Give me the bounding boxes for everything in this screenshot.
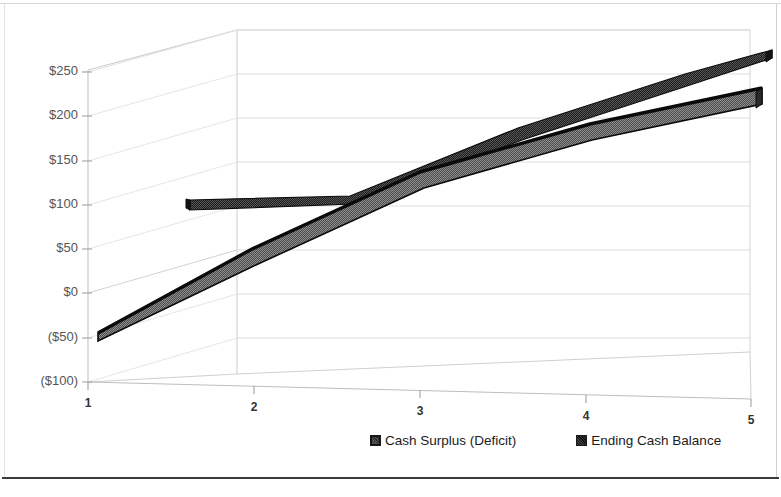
y-axis-label-50: $50 (4, 240, 78, 255)
legend-item-cash-surplus-deficit[interactable]: Cash Surplus (Deficit) (370, 433, 516, 448)
x-axis-label-2: 2 (242, 400, 266, 414)
x-axis-label-3: 3 (408, 404, 432, 418)
legend-label-ending-cash-balance: Ending Cash Balance (591, 433, 721, 448)
y-axis-label-neg100: ($100) (4, 373, 78, 388)
plot-area (0, 0, 781, 497)
legend-item-ending-cash-balance[interactable]: Ending Cash Balance (576, 433, 721, 448)
series-2-left-cap (186, 199, 190, 210)
y-axis-label-150: $150 (4, 152, 78, 167)
chart-legend: Cash Surplus (Deficit) Ending Cash Balan… (370, 433, 721, 448)
x-axis-label-4: 4 (574, 409, 598, 423)
y-axis-label-100: $100 (4, 196, 78, 211)
y-axis-label-neg50: ($50) (4, 329, 78, 344)
series-1-swatch-icon (370, 435, 381, 446)
chart-figure: $250 $200 $150 $100 $50 $0 ($50) ($100) … (0, 0, 781, 497)
series-1-right-cap (756, 88, 762, 108)
legend-label-cash-surplus-deficit: Cash Surplus (Deficit) (385, 433, 516, 448)
series-2-swatch-icon (576, 435, 587, 446)
y-axis-label-250: $250 (4, 63, 78, 78)
x-axis-label-1: 1 (76, 396, 100, 410)
y-axis-label-0: $0 (4, 284, 78, 299)
x-axis-label-5: 5 (739, 413, 763, 427)
y-axis-label-200: $200 (4, 107, 78, 122)
